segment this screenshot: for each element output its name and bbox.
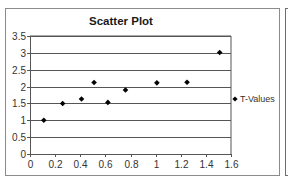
data-point-diamond-icon: [91, 80, 97, 86]
chart-title: Scatter Plot: [89, 15, 153, 27]
data-points: [41, 50, 222, 123]
x-tick-label: 1.4: [200, 159, 214, 170]
x-tick-label: 0.6: [99, 159, 113, 170]
x-axis-ticks: 00.20.40.60.811.21.41.6: [28, 154, 239, 170]
y-tick-label: 1.5: [12, 98, 26, 109]
data-point-diamond-icon: [217, 50, 223, 56]
legend-diamond-icon: [232, 96, 237, 101]
scatter-chart: Scatter Plot 00.511.522.533.5 00.20.40.6…: [0, 0, 288, 180]
x-tick-label: 1.6: [225, 159, 239, 170]
y-tick-label: 0.5: [12, 132, 26, 143]
y-axis-ticks: 00.511.522.533.5: [12, 31, 30, 160]
x-tick-label: 0.4: [74, 159, 88, 170]
data-point-diamond-icon: [60, 101, 66, 107]
x-tick-label: 1.2: [175, 159, 189, 170]
gridlines: [30, 36, 231, 154]
data-point-diamond-icon: [41, 117, 47, 123]
x-tick-label: 1: [154, 159, 160, 170]
data-point-diamond-icon: [105, 100, 111, 106]
data-point-diamond-icon: [184, 79, 190, 85]
y-tick-label: 3: [20, 48, 26, 59]
x-tick-label: 0.8: [125, 159, 139, 170]
y-tick-label: 2: [20, 82, 26, 93]
x-tick-label: 0: [28, 159, 34, 170]
legend: T-Values: [232, 94, 275, 104]
x-tick-label: 0.2: [49, 159, 63, 170]
legend-label: T-Values: [240, 94, 275, 104]
y-tick-label: 0: [20, 149, 26, 160]
data-point-diamond-icon: [79, 96, 85, 102]
y-tick-label: 2.5: [12, 65, 26, 76]
y-tick-label: 3.5: [12, 31, 26, 42]
data-point-diamond-icon: [154, 80, 160, 86]
y-tick-label: 1: [20, 115, 26, 126]
